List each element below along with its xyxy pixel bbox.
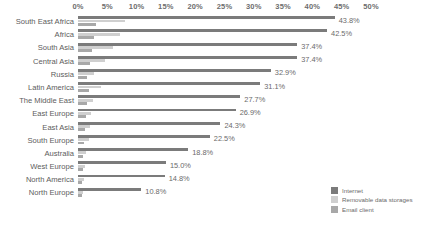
bar-0 bbox=[78, 175, 165, 178]
chart-row: Latin America31.1% bbox=[0, 81, 423, 94]
bar-0 bbox=[78, 135, 210, 138]
category-label: East Europe bbox=[0, 107, 74, 120]
chart-row: West Europe15.0% bbox=[0, 160, 423, 173]
category-label: Russia bbox=[0, 68, 74, 81]
bar-0 bbox=[78, 69, 271, 72]
bar-group: 37.4% bbox=[78, 42, 371, 53]
bar-2 bbox=[78, 128, 85, 131]
chart-row: Australia18.8% bbox=[0, 147, 423, 160]
bar-2 bbox=[78, 89, 89, 92]
category-label: Africa bbox=[0, 28, 74, 41]
bar-group: 18.8% bbox=[78, 148, 371, 159]
category-label: South Europe bbox=[0, 134, 74, 147]
bar-group: 24.3% bbox=[78, 122, 371, 133]
legend-item-0: Internet bbox=[331, 186, 423, 194]
value-label: 37.4% bbox=[301, 42, 322, 51]
bar-2 bbox=[78, 102, 87, 105]
chart-row: South East Africa43.8% bbox=[0, 15, 423, 28]
x-tick-3: 15% bbox=[158, 2, 174, 11]
chart-row: South Europe22.5% bbox=[0, 134, 423, 147]
value-label: 37.4% bbox=[301, 55, 322, 64]
category-label: South East Africa bbox=[0, 15, 74, 28]
x-tick-10: 50% bbox=[363, 2, 379, 11]
bar-2 bbox=[78, 155, 83, 158]
x-tick-6: 30% bbox=[246, 2, 262, 11]
value-label: 24.3% bbox=[224, 121, 245, 130]
legend-swatch-icon bbox=[331, 206, 338, 213]
value-label: 14.8% bbox=[169, 174, 190, 183]
value-label: 31.1% bbox=[264, 82, 285, 91]
category-label: North Europe bbox=[0, 186, 74, 199]
legend-swatch-icon bbox=[331, 196, 338, 203]
value-label: 22.5% bbox=[214, 134, 235, 143]
bar-group: 37.4% bbox=[78, 56, 371, 67]
bar-0 bbox=[78, 188, 141, 191]
x-tick-1: 5% bbox=[102, 2, 113, 11]
bar-2 bbox=[78, 142, 84, 145]
bar-2 bbox=[78, 49, 92, 52]
bar-group: 42.5% bbox=[78, 29, 371, 40]
chart-row: Russia32.9% bbox=[0, 68, 423, 81]
bar-2 bbox=[78, 194, 82, 197]
legend-swatch-icon bbox=[331, 187, 338, 194]
chart-row: Central Asia37.4% bbox=[0, 55, 423, 68]
bar-2 bbox=[78, 76, 87, 79]
value-label: 27.7% bbox=[244, 95, 265, 104]
bar-group: 43.8% bbox=[78, 16, 371, 27]
legend-item-1: Removable data storages bbox=[331, 196, 423, 204]
bar-group: 15.0% bbox=[78, 161, 371, 172]
value-label: 43.8% bbox=[339, 16, 360, 25]
legend-label: Internet bbox=[342, 187, 363, 194]
bar-2 bbox=[78, 168, 83, 171]
value-label: 42.5% bbox=[331, 29, 352, 38]
category-label: South Asia bbox=[0, 41, 74, 54]
bar-0 bbox=[78, 95, 240, 98]
category-label: Central Asia bbox=[0, 55, 74, 68]
bar-group: 32.9% bbox=[78, 69, 371, 80]
value-label: 26.9% bbox=[240, 108, 261, 117]
bar-group: 14.8% bbox=[78, 174, 371, 185]
bar-2 bbox=[78, 36, 94, 39]
value-label: 10.8% bbox=[145, 187, 166, 196]
bar-group: 31.1% bbox=[78, 82, 371, 93]
legend-item-2: Email client bbox=[331, 206, 423, 214]
bar-0 bbox=[78, 148, 188, 151]
legend-label: Email client bbox=[342, 206, 374, 213]
chart-row: The Middle East27.7% bbox=[0, 94, 423, 107]
bar-2 bbox=[78, 115, 86, 118]
bar-chart: 0%5%10%15%20%25%30%35%40%45%50% South Ea… bbox=[0, 0, 423, 226]
x-axis-tick-labels: 0%5%10%15%20%25%30%35%40%45%50% bbox=[0, 2, 423, 14]
chart-row: East Asia24.3% bbox=[0, 121, 423, 134]
bar-2 bbox=[78, 181, 82, 184]
category-label: West Europe bbox=[0, 160, 74, 173]
bar-0 bbox=[78, 82, 260, 85]
bar-2 bbox=[78, 62, 90, 65]
category-label: Latin America bbox=[0, 81, 74, 94]
legend-label: Removable data storages bbox=[342, 196, 413, 203]
chart-row: Africa42.5% bbox=[0, 28, 423, 41]
bar-group: 26.9% bbox=[78, 108, 371, 119]
chart-row: East Europe26.9% bbox=[0, 107, 423, 120]
x-tick-8: 40% bbox=[305, 2, 321, 11]
category-label: East Asia bbox=[0, 121, 74, 134]
chart-row: South Asia37.4% bbox=[0, 41, 423, 54]
bar-0 bbox=[78, 161, 166, 164]
value-label: 18.8% bbox=[192, 148, 213, 157]
bar-0 bbox=[78, 109, 236, 112]
x-tick-4: 20% bbox=[187, 2, 203, 11]
x-tick-2: 10% bbox=[129, 2, 145, 11]
chart-rows: South East Africa43.8%Africa42.5%South A… bbox=[0, 15, 423, 200]
category-label: The Middle East bbox=[0, 94, 74, 107]
chart-row: North America14.8% bbox=[0, 173, 423, 186]
bar-0 bbox=[78, 122, 220, 125]
bar-group: 10.8% bbox=[78, 188, 371, 199]
x-tick-5: 25% bbox=[217, 2, 233, 11]
category-label: North America bbox=[0, 173, 74, 186]
x-tick-7: 35% bbox=[275, 2, 291, 11]
x-tick-9: 45% bbox=[334, 2, 350, 11]
x-tick-0: 0% bbox=[72, 2, 83, 11]
bar-group: 22.5% bbox=[78, 135, 371, 146]
value-label: 32.9% bbox=[275, 68, 296, 77]
chart-legend: InternetRemovable data storagesEmail cli… bbox=[331, 186, 423, 215]
bar-group: 27.7% bbox=[78, 95, 371, 106]
